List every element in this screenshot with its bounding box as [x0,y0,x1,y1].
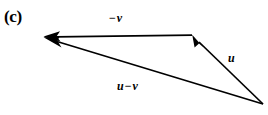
vector-u-arrowhead [192,35,203,48]
minus-operator-neg-v: − [108,11,117,25]
vector-diagram-figure: (c) −v u u−v [0,0,268,115]
minus-operator-u-minus-v: − [124,79,133,93]
vector-neg-v-shaft [56,35,192,37]
vector-label-u: u [228,52,235,64]
vector-symbol-u: u [228,51,235,65]
vector-label-u-minus-v: u−v [117,80,138,92]
panel-label: (c) [4,8,22,25]
vector-symbol-v: v [117,11,122,25]
vector-label-neg-v: −v [108,12,122,24]
vector-symbol-u-first: u [117,79,124,93]
vector-symbol-v-second: v [133,79,138,93]
